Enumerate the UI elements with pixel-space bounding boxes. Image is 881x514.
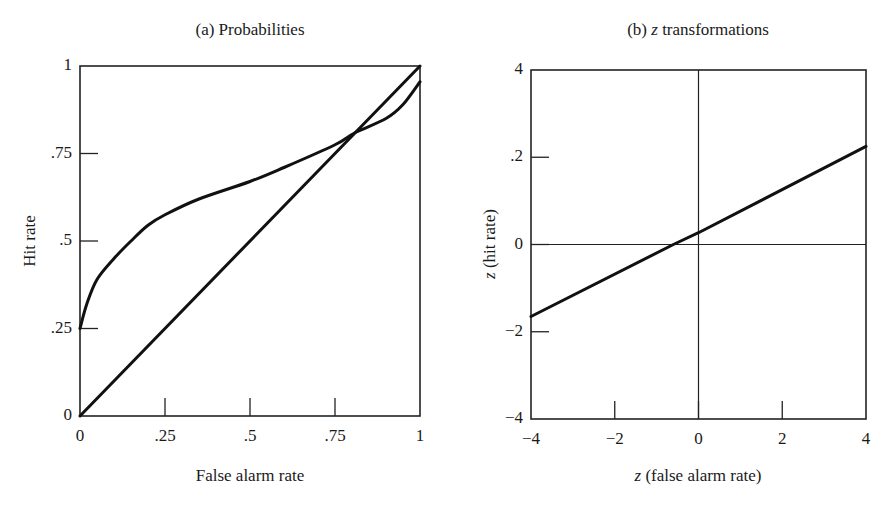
x-tick-label: 2 xyxy=(778,429,787,449)
chart-b-xlabel: z (false alarm rate) xyxy=(635,466,762,486)
y-tick-label: 0 xyxy=(515,234,524,254)
y-tick-label: −2 xyxy=(505,321,523,341)
chart-b-ylabel: z (hit rate) xyxy=(480,209,500,279)
y-tick-label: .2 xyxy=(510,146,523,166)
y-tick-label: −4 xyxy=(505,408,523,428)
x-tick-label: 4 xyxy=(862,429,871,449)
x-tick-label: −2 xyxy=(606,429,624,449)
y-tick-label: 4 xyxy=(515,59,524,79)
chart-b-plot xyxy=(0,0,881,514)
x-tick-label: −4 xyxy=(522,429,540,449)
x-tick-label: 0 xyxy=(694,429,703,449)
